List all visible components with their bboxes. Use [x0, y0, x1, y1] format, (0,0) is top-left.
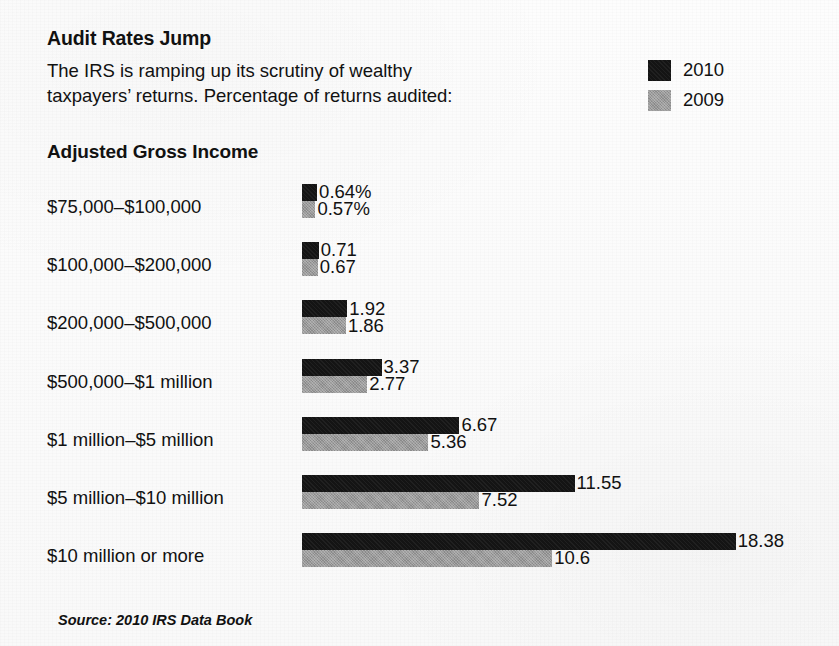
category-label: $10 million or more [47, 547, 204, 566]
bar-value-label: 0.57% [317, 200, 369, 219]
bar-value-label: 6.67 [461, 416, 497, 435]
bar-row: 2.77 [302, 376, 405, 393]
bar-2009 [302, 376, 367, 393]
bar-2009 [302, 317, 346, 334]
chart-figure: Audit Rates Jump The IRS is ramping up i… [0, 0, 839, 646]
bar-chart-plot: $75,000–$100,0000.64%0.57%$100,000–$200,… [0, 0, 839, 646]
bar-2010 [302, 184, 317, 201]
bar-value-label: 2.77 [369, 375, 405, 394]
bar-2010 [302, 533, 736, 550]
bar-row: 0.67 [302, 259, 356, 276]
category-label: $500,000–$1 million [47, 373, 213, 392]
bar-row: 6.67 [302, 417, 497, 434]
bar-group: $500,000–$1 million3.372.77 [0, 359, 839, 393]
category-label: $75,000–$100,000 [47, 198, 201, 217]
bar-2010 [302, 242, 319, 259]
bar-value-label: 10.6 [554, 549, 590, 568]
bar-row: 5.36 [302, 434, 467, 451]
bar-2010 [302, 300, 347, 317]
bar-row: 11.55 [302, 475, 622, 492]
category-label: $100,000–$200,000 [47, 256, 212, 275]
bar-row: 18.38 [302, 533, 784, 550]
bar-row: 0.57% [302, 201, 370, 218]
chart-source: Source: 2010 IRS Data Book [58, 612, 252, 628]
bar-group: $200,000–$500,0001.921.86 [0, 300, 839, 334]
bar-2009 [302, 259, 318, 276]
bar-2010 [302, 475, 575, 492]
bar-2009 [302, 201, 315, 218]
bar-group: $10 million or more18.3810.6 [0, 533, 839, 567]
bar-value-label: 7.52 [481, 491, 517, 510]
bar-2009 [302, 434, 428, 451]
bar-2009 [302, 492, 479, 509]
bar-value-label: 11.55 [577, 474, 622, 493]
category-label: $200,000–$500,000 [47, 314, 212, 333]
bar-value-label: 5.36 [430, 433, 466, 452]
bar-row: 1.86 [302, 317, 384, 334]
bar-group: $75,000–$100,0000.64%0.57% [0, 184, 839, 218]
bar-value-label: 1.86 [348, 317, 384, 336]
bar-group: $100,000–$200,0000.710.67 [0, 242, 839, 276]
bar-2009 [302, 550, 552, 567]
category-label: $1 million–$5 million [47, 431, 214, 450]
bar-group: $5 million–$10 million11.557.52 [0, 475, 839, 509]
bar-row: 7.52 [302, 492, 517, 509]
bar-group: $1 million–$5 million6.675.36 [0, 417, 839, 451]
bar-value-label: 0.67 [320, 258, 356, 277]
bar-row: 10.6 [302, 550, 590, 567]
bar-value-label: 18.38 [738, 532, 784, 551]
category-label: $5 million–$10 million [47, 489, 224, 508]
